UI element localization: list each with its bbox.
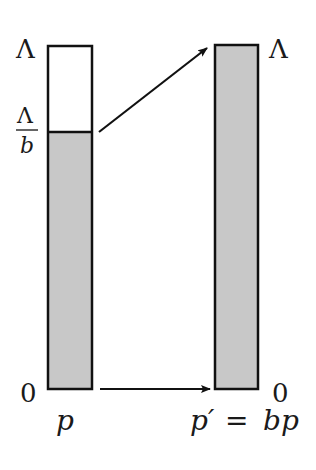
right-tick-lambda: Λ: [268, 34, 289, 64]
right-bar-label-equals: =: [225, 404, 248, 437]
left-tick-lambda: Λ: [15, 34, 36, 64]
right-bar-label-pprime: p′: [190, 404, 215, 437]
left-tick-fraction-numerator: Λ: [16, 103, 34, 128]
right-bar: [215, 45, 258, 389]
momentum-rescaling-diagram: Λ Λ b 0 p Λ 0 p′ = bp: [0, 0, 316, 470]
right-bar-filled-region: [215, 45, 258, 389]
left-tick-fraction-denominator: b: [20, 133, 34, 158]
left-bar-label-p: p: [56, 404, 74, 437]
right-bar-label-bp: bp: [263, 404, 299, 437]
left-bar-empty-region: [48, 46, 92, 132]
scale-arrow-top: [99, 48, 207, 132]
left-bar-filled-region: [48, 132, 92, 389]
left-bar: [48, 46, 92, 389]
left-tick-zero: 0: [20, 378, 37, 408]
